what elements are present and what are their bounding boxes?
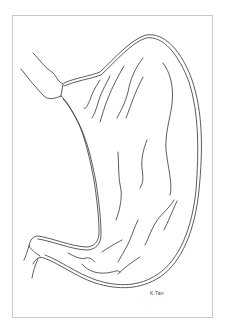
- esophagus: [21, 53, 63, 99]
- artist-signature: K.Tan: [150, 290, 164, 296]
- stomach-wall: [24, 35, 201, 288]
- rugae-folds: [68, 58, 177, 274]
- stomach-illustration: [0, 0, 226, 335]
